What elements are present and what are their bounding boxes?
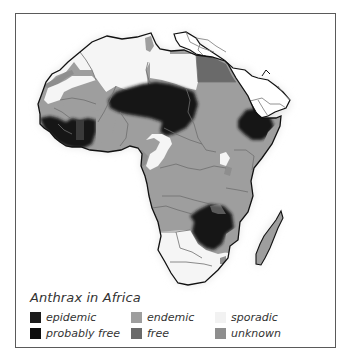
legend-label: unknown [231, 327, 281, 340]
legend-item-unknown: unknown [215, 327, 281, 340]
legend-item-sporadic: sporadic [215, 311, 278, 324]
legend-item-probably-free: probably free [30, 327, 120, 340]
legend-item-endemic: endemic [131, 311, 194, 324]
africa-regions [30, 30, 290, 300]
africa-map [0, 0, 351, 361]
legend-label: epidemic [46, 311, 96, 324]
swatch-probably-free [30, 328, 41, 339]
map-title: Anthrax in Africa [30, 290, 141, 305]
swatch-epidemic [30, 312, 41, 323]
madagascar [256, 211, 283, 265]
swatch-free [131, 328, 142, 339]
swatch-endemic [131, 312, 142, 323]
legend-label: sporadic [231, 311, 278, 324]
legend-label: probably free [46, 327, 120, 340]
legend-label: endemic [147, 311, 194, 324]
legend: epidemic endemic sporadic probably free … [30, 311, 330, 345]
legend-label: free [147, 327, 169, 340]
swatch-unknown [215, 328, 226, 339]
legend-item-free: free [131, 327, 169, 340]
legend-item-epidemic: epidemic [30, 311, 96, 324]
swatch-sporadic [215, 312, 226, 323]
